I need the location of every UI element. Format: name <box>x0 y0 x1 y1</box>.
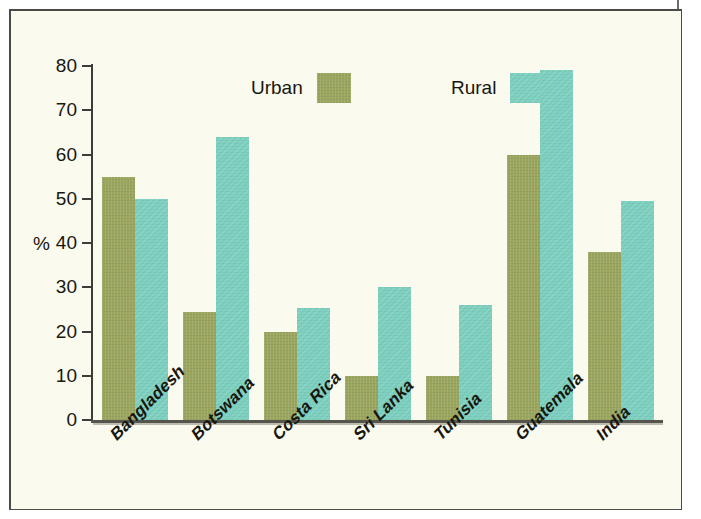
y-axis-tick-label: 10 <box>33 366 77 385</box>
bar-group <box>426 66 492 420</box>
y-axis-tick-label: 60 <box>33 145 77 164</box>
y-axis-tick-label: 20 <box>33 322 77 341</box>
chart-frame: % 01020304050607080 UrbanRural Banglades… <box>9 9 682 510</box>
bar-rural-guatemala <box>540 70 573 420</box>
y-axis-tick-label: 80 <box>33 56 77 75</box>
y-axis-tick <box>82 286 91 288</box>
figure: % 01020304050607080 UrbanRural Banglades… <box>0 0 701 519</box>
y-axis-tick-label: 40 <box>33 233 77 252</box>
bar-group <box>588 66 654 420</box>
bar-group <box>345 66 411 420</box>
y-axis-tick-label: 50 <box>33 189 77 208</box>
y-axis-tick-labels: 01020304050607080 <box>29 11 77 519</box>
bar-urban-india <box>588 252 621 420</box>
bar-rural-india <box>621 201 654 420</box>
y-axis-tick <box>82 419 91 421</box>
y-axis-tick <box>82 242 91 244</box>
bar-group <box>264 66 330 420</box>
y-axis-tick <box>82 154 91 156</box>
y-axis-tick <box>82 109 91 111</box>
y-axis-tick <box>82 198 91 200</box>
bar-group <box>507 66 573 420</box>
y-axis-tick-label: 70 <box>33 100 77 119</box>
bar-urban-guatemala <box>507 155 540 421</box>
bar-group <box>102 66 168 420</box>
y-axis-tick-label: 0 <box>33 410 77 429</box>
y-axis-tick <box>82 375 91 377</box>
y-axis-tick <box>82 331 91 333</box>
bar-urban-bangladesh <box>102 177 135 420</box>
y-axis-tick <box>82 65 91 67</box>
bar-group <box>183 66 249 420</box>
bar-urban-botswana <box>183 312 216 420</box>
y-axis-tick-label: 30 <box>33 277 77 296</box>
